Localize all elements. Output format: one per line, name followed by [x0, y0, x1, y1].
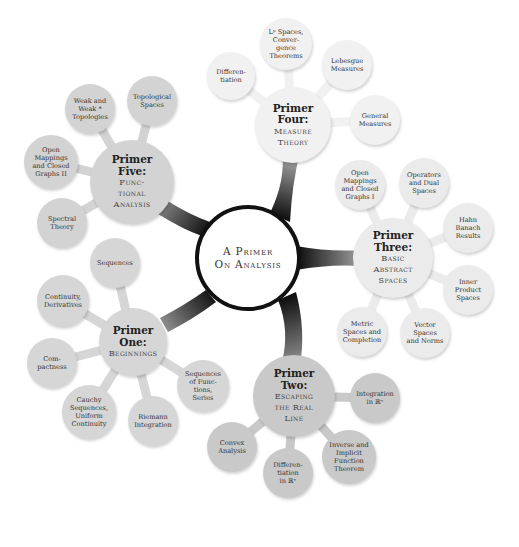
leaf-lp-spaces-convergence-theorems[interactable]: Lᵖ Spaces,Conver-genceTheorems: [260, 18, 312, 70]
leaf-sequences-of-functions-series[interactable]: Sequencesof Func-tions,Series: [177, 360, 229, 412]
leaf-metric-spaces-completion[interactable]: MetricSpaces andCompletion: [337, 307, 387, 357]
leaf-text: Spaces: [407, 187, 441, 195]
hub-title: Two:: [274, 380, 315, 392]
leaf-text: Graphs II: [32, 170, 69, 178]
leaf-text: Convex: [218, 439, 246, 447]
leaf-text: Inner: [455, 278, 481, 286]
leaf-inverse-implicit-function-theorem[interactable]: Inverse andImplicitFunctionTheorem: [322, 430, 376, 484]
leaf-text: Spectral: [48, 215, 76, 223]
hub-subtitle: Abstract: [373, 264, 414, 275]
hub-title: Five:: [112, 166, 153, 178]
leaf-text: Banach: [456, 224, 481, 232]
leaf-text: Inverse and: [329, 441, 368, 449]
hub-primer-one-beginnings[interactable]: Primer One: Beginnings: [99, 308, 167, 376]
leaf-compactness[interactable]: Com-pactness: [27, 338, 77, 388]
leaf-general-measures[interactable]: GeneralMeasures: [350, 95, 400, 145]
leaf-integration-in-rn[interactable]: Integrationin ℝⁿ: [350, 373, 400, 423]
hub-subtitle: tional: [112, 188, 153, 199]
leaf-riemann-integration[interactable]: RiemannIntegration: [128, 396, 178, 446]
leaf-text: Spaces: [406, 329, 443, 337]
leaf-text: and Closed: [32, 162, 69, 170]
leaf-text: in ℝⁿ: [356, 398, 394, 406]
leaf-text: Product: [455, 286, 481, 294]
leaf-lebesgue-measures[interactable]: LebesgueMeasures: [322, 40, 372, 90]
leaf-open-mappings-closed-graphs-ii[interactable]: OpenMappingsand ClosedGraphs II: [24, 135, 78, 189]
leaf-text: Spaces and: [343, 328, 381, 336]
leaf-text: Sequences: [97, 259, 133, 267]
hub-subtitle: the Real: [274, 402, 315, 413]
leaf-text: tions,: [185, 386, 221, 394]
hub-subtitle: Analysis: [112, 199, 153, 210]
leaf-continuity-derivatives[interactable]: Continuity,Derivatives: [37, 275, 89, 327]
leaf-text: Conver-: [269, 36, 304, 44]
leaf-vector-spaces-norms[interactable]: VectorSpacesand Norms: [400, 308, 450, 358]
leaf-text: Integration: [356, 390, 394, 398]
leaf-text: and Closed: [341, 185, 378, 193]
hub-subtitle: Basic: [373, 253, 414, 264]
leaf-hahn-banach-results[interactable]: HahnBanachResults: [443, 203, 493, 253]
leaf-text: gence: [269, 44, 304, 52]
leaf-open-mappings-closed-graphs-i[interactable]: OpenMappingsand ClosedGraphs I: [335, 160, 385, 210]
leaf-text: Differen-: [273, 461, 303, 469]
leaf-text: and Dual: [407, 179, 441, 187]
leaf-differentiation[interactable]: Differen-tiation: [207, 52, 255, 100]
leaf-text: Completion: [343, 336, 381, 344]
leaf-text: Uniform: [70, 412, 108, 420]
leaf-topological-spaces[interactable]: TopologicalSpaces: [127, 76, 177, 126]
leaf-text: Mappings: [32, 154, 69, 162]
hub-primer-two-escaping-the-real-line[interactable]: Primer Two: Escaping the Real Line: [253, 355, 335, 437]
leaf-text: Series: [185, 394, 221, 402]
leaf-text: Sequences,: [70, 404, 108, 412]
hub-title: Primer: [109, 325, 158, 337]
leaf-sequences[interactable]: Sequences: [90, 238, 140, 288]
hub-title: Three:: [373, 242, 414, 254]
leaf-text: Topological: [133, 93, 171, 101]
leaf-weak-and-weak-star-topologies[interactable]: Weak andWeak *Topologies: [65, 84, 115, 134]
leaf-operators-dual-spaces[interactable]: Operatorsand DualSpaces: [399, 158, 449, 208]
leaf-text: Derivatives: [44, 301, 82, 309]
leaf-cauchy-sequences-uniform-continuity[interactable]: CauchySequences,UniformContinuity: [62, 385, 116, 439]
leaf-text: Lᵖ Spaces,: [269, 28, 304, 36]
mind-map-diagram: A Primer On Analysis Primer Four: Measur…: [0, 0, 519, 547]
center-title-line-2: On Analysis: [215, 258, 282, 271]
leaf-text: Riemann: [134, 413, 172, 421]
leaf-text: Integration: [134, 421, 172, 429]
hub-primer-four-measure-theory[interactable]: Primer Four: Measure Theory: [255, 87, 331, 163]
leaf-convex-analysis[interactable]: ConvexAnalysis: [207, 422, 257, 472]
leaf-text: Com-: [37, 355, 66, 363]
leaf-text: tiation: [273, 469, 303, 477]
leaf-text: Spaces: [133, 101, 171, 109]
leaf-text: Graphs I: [341, 193, 378, 201]
leaf-text: Topologies: [72, 113, 108, 121]
leaf-text: Theorem: [329, 465, 368, 473]
center-node-a-primer-on-analysis[interactable]: A Primer On Analysis: [195, 205, 301, 311]
hub-primer-three-basic-abstract-spaces[interactable]: Primer Three: Basic Abstract Spaces: [353, 218, 433, 298]
leaf-text: Operators: [407, 171, 441, 179]
leaf-text: Results: [456, 232, 481, 240]
leaf-inner-product-spaces[interactable]: InnerProductSpaces: [443, 265, 493, 315]
leaf-text: General: [359, 112, 392, 120]
leaf-text: Vector: [406, 321, 443, 329]
leaf-text: Continuity,: [44, 293, 82, 301]
leaf-text: tiation: [216, 76, 246, 84]
leaf-text: Open: [32, 146, 69, 154]
hub-title: Primer: [373, 230, 414, 242]
hub-title: Four:: [273, 114, 314, 126]
leaf-text: Continuity: [70, 420, 108, 428]
leaf-text: Function: [329, 457, 368, 465]
hub-subtitle: Theory: [273, 137, 314, 148]
hub-subtitle: Spaces: [373, 275, 414, 286]
leaf-text: Measures: [331, 65, 364, 73]
hub-title: One:: [109, 337, 158, 349]
leaf-text: Sequences: [185, 370, 221, 378]
hub-subtitle: Func-: [112, 177, 153, 188]
leaf-text: Spaces: [455, 294, 481, 302]
leaf-differentiation-in-rn[interactable]: Differen-tiationin ℝⁿ: [263, 448, 313, 498]
leaf-text: pactness: [37, 363, 66, 371]
leaf-spectral-theory[interactable]: SpectralTheory: [37, 198, 87, 248]
leaf-text: Cauchy: [70, 396, 108, 404]
hub-title: Primer: [112, 154, 153, 166]
leaf-text: Measures: [359, 120, 392, 128]
leaf-text: Theorems: [269, 52, 304, 60]
hub-primer-five-functional-analysis[interactable]: Primer Five: Func- tional Analysis: [90, 140, 174, 224]
